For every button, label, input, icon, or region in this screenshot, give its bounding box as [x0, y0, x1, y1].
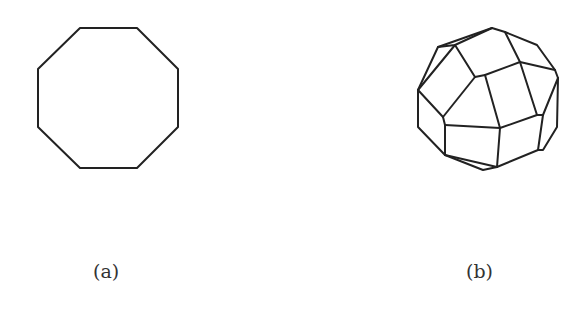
polyhedron-figure-b [418, 28, 558, 170]
octagon-shape [38, 28, 178, 168]
octagon-figure-a [38, 28, 178, 168]
polyhedron-outline [418, 28, 558, 170]
figure-a-caption: (a) [93, 260, 119, 282]
figure-b-caption: (b) [466, 260, 493, 282]
